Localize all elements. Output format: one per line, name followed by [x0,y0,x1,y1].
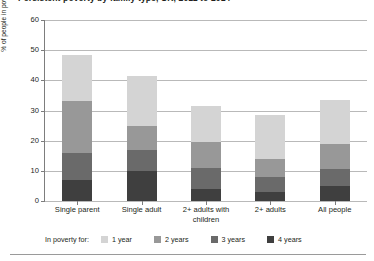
stacked-bar[interactable] [255,115,285,201]
bar-segment-2-years [191,142,221,168]
x-axis-labels: Single parentSingle adult2+ adults with … [45,205,367,229]
chart-title: Persistent poverty by family type, UK, 2… [18,0,358,3]
legend-label: 1 year [112,236,132,243]
chart-legend: In poverty for: 1 year2 years3 years4 ye… [45,234,367,246]
legend-title: In poverty for: [45,236,89,243]
bar-group [238,20,302,201]
bar-segment-4-years [191,189,221,201]
bar-segment-3-years [127,150,157,171]
x-axis-label: 2+ adults with children [174,205,238,224]
x-axis-label: Single parent [45,205,109,215]
bar-segment-1-year [127,76,157,126]
y-tick-label: 0 [35,197,39,205]
y-tick-label: 40 [31,77,39,85]
legend-label: 2 years [165,236,189,243]
bar-segment-4-years [62,180,92,201]
y-tick-label: 20 [31,137,39,145]
legend-swatch-icon [267,236,274,243]
x-axis-label: All people [303,205,367,215]
legend-swatch-icon [211,236,218,243]
x-axis-label: 2+ adults [238,205,302,215]
x-axis-label: Single adult [109,205,173,215]
bar-segment-1-year [191,106,221,142]
y-tick-mark [41,201,45,202]
legend-item[interactable]: 1 year [101,236,132,243]
stacked-bar[interactable] [320,100,350,201]
stacked-bar-chart-figure: Persistent poverty by family type, UK, 2… [0,0,374,261]
bar-segment-2-years [255,159,285,177]
y-tick-label: 30 [31,107,39,115]
y-axis-title: % of people in poverty at some point bet… [0,0,22,52]
legend-item[interactable]: 3 years [211,236,246,243]
bar-segment-3-years [62,153,92,180]
bar-segment-2-years [127,126,157,150]
bar-segment-1-year [255,115,285,159]
bar-group [109,20,173,201]
stacked-bar[interactable] [127,76,157,201]
bar-segment-4-years [127,171,157,201]
bar-segment-1-year [62,55,92,102]
bar-segment-4-years [320,186,350,201]
legend-items: 1 year2 years3 years4 years [101,236,324,243]
bar-segment-3-years [320,169,350,186]
stacked-bar[interactable] [191,106,221,201]
legend-item[interactable]: 4 years [267,236,302,243]
legend-swatch-icon [154,236,161,243]
y-tick-label: 50 [31,46,39,54]
bar-segment-1-year [320,100,350,144]
bar-segment-4-years [255,192,285,201]
y-tick-label: 10 [31,167,39,175]
legend-label: 4 years [278,236,302,243]
stacked-bar[interactable] [62,55,92,201]
bar-segment-2-years [320,144,350,170]
footer-divider [10,254,366,255]
y-tick-label: 60 [31,16,39,24]
bar-group [45,20,109,201]
bar-segment-2-years [62,101,92,152]
legend-label: 3 years [222,236,246,243]
bar-group [174,20,238,201]
bar-segment-3-years [255,177,285,192]
bar-segment-3-years [191,168,221,189]
legend-item[interactable]: 2 years [154,236,189,243]
plot-area: 0102030405060 [45,20,367,201]
bar-group [303,20,367,201]
legend-swatch-icon [101,236,108,243]
